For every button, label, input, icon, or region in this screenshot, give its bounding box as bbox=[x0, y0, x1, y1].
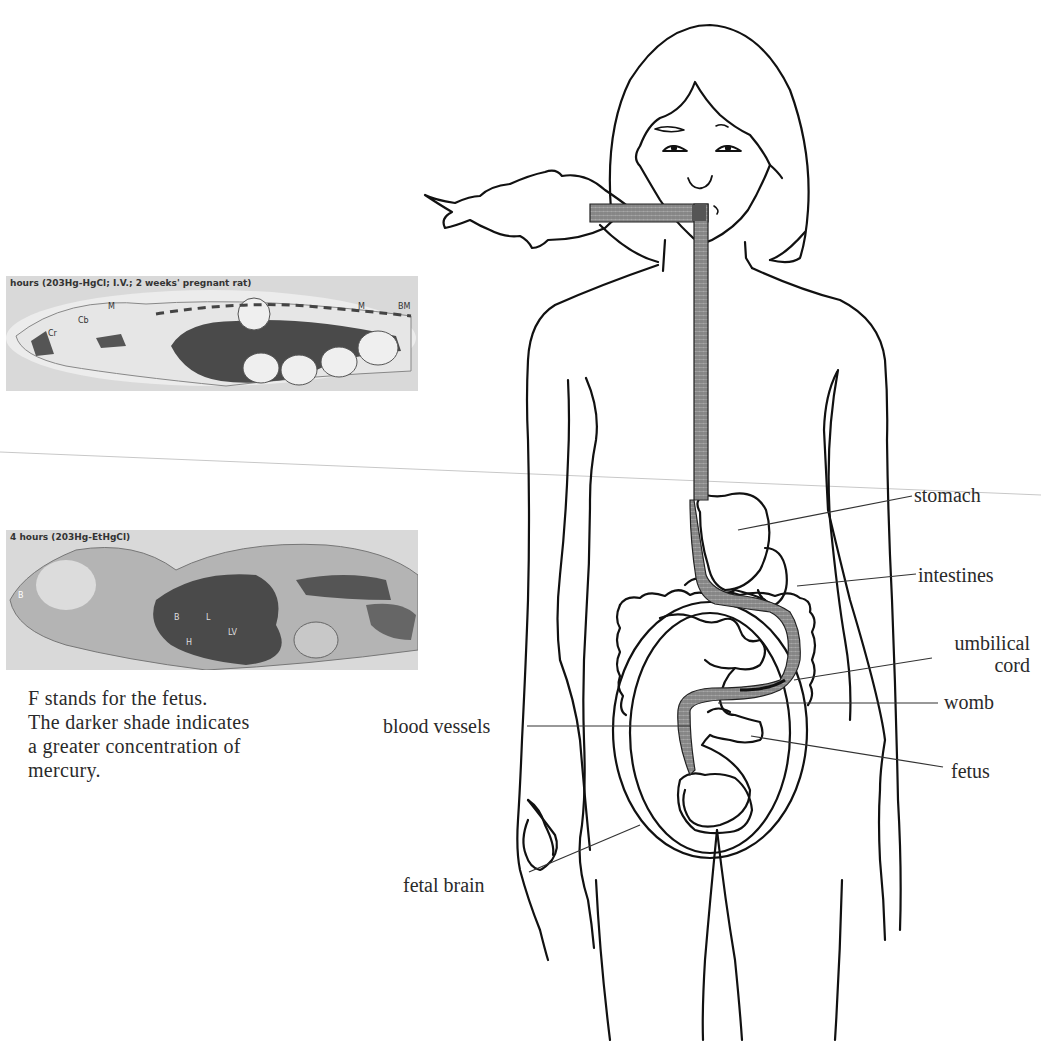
label-intestines: intestines bbox=[918, 564, 994, 586]
hair-outline bbox=[610, 25, 809, 262]
body-diagram bbox=[0, 0, 1041, 1063]
label-womb: womb bbox=[944, 691, 994, 713]
neck-right bbox=[745, 242, 752, 268]
mercury-pathway bbox=[590, 204, 800, 775]
womb bbox=[613, 602, 807, 858]
label-fetal-brain: fetal brain bbox=[403, 874, 485, 896]
fetal-brain bbox=[678, 773, 752, 833]
leg-right bbox=[835, 880, 842, 1040]
nose bbox=[688, 176, 712, 188]
left-shoulder-arm bbox=[517, 265, 658, 960]
neck-left bbox=[663, 240, 665, 271]
left-hand bbox=[523, 800, 556, 870]
scan-artifact-line bbox=[0, 452, 1041, 495]
waist-right bbox=[829, 370, 851, 720]
label-umbilical-cord-line1: umbilical bbox=[930, 632, 1030, 654]
stomach bbox=[697, 493, 769, 590]
label-umbilical-cord-line2: cord bbox=[930, 654, 1030, 676]
leg-left bbox=[596, 880, 610, 1040]
label-blood-vessels: blood vessels bbox=[383, 715, 490, 737]
label-stomach: stomach bbox=[914, 484, 981, 506]
label-fetus: fetus bbox=[951, 760, 990, 782]
label-umbilical-cord: umbilical cord bbox=[930, 632, 1030, 676]
